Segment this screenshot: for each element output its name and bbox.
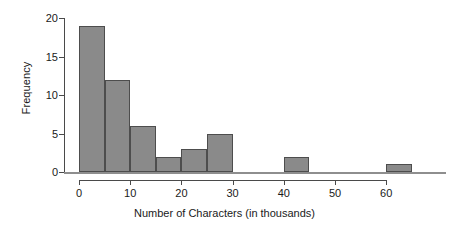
- x-axis-tick-mark: [335, 180, 336, 185]
- y-axis-tick-mark: [59, 95, 64, 96]
- histogram-figure: Frequency 05101520 0102030405060 Number …: [0, 0, 449, 229]
- histogram-bar: [105, 80, 131, 172]
- histogram-bar: [181, 149, 207, 172]
- x-axis-tick-mark: [181, 180, 182, 185]
- y-axis-line: [64, 18, 65, 172]
- y-axis-tick-label: 20: [36, 12, 58, 24]
- x-axis-baseline: [64, 172, 446, 174]
- y-axis-tick-label: 5: [36, 128, 58, 140]
- y-axis-tick-labels: 05101520: [36, 0, 58, 229]
- x-axis-tick-mark: [284, 180, 285, 185]
- x-axis-title-text: Number of Characters (in thousands): [134, 207, 315, 219]
- histogram-bar: [130, 126, 156, 172]
- histogram-bar: [207, 134, 233, 173]
- y-axis-tick-mark: [59, 134, 64, 135]
- histogram-bar: [79, 26, 105, 172]
- y-axis-tick-label: 15: [36, 51, 58, 63]
- x-axis-tick-label: 60: [380, 187, 392, 199]
- x-axis-tick-label: 20: [175, 187, 187, 199]
- x-axis-tick-label: 10: [124, 187, 136, 199]
- histogram-bar: [284, 157, 310, 172]
- plot-area: 05101520 0102030405060: [0, 0, 449, 229]
- x-axis-title: Number of Characters (in thousands): [0, 207, 449, 219]
- y-axis-tick-label: 0: [36, 166, 58, 178]
- x-axis-tick-label: 30: [226, 187, 238, 199]
- x-axis-tick-label: 50: [329, 187, 341, 199]
- y-axis-tick-mark: [59, 18, 64, 19]
- y-axis-tick-label: 10: [36, 89, 58, 101]
- x-axis-tick-mark: [79, 180, 80, 185]
- x-axis-tick-mark: [386, 180, 387, 185]
- x-axis-tick-mark: [233, 180, 234, 185]
- x-axis-tick-mark: [130, 180, 131, 185]
- histogram-bar: [156, 157, 182, 172]
- x-axis-tick-label: 40: [278, 187, 290, 199]
- y-axis-tick-mark: [59, 57, 64, 58]
- x-axis-tick-label: 0: [76, 187, 82, 199]
- histogram-bar: [386, 164, 412, 172]
